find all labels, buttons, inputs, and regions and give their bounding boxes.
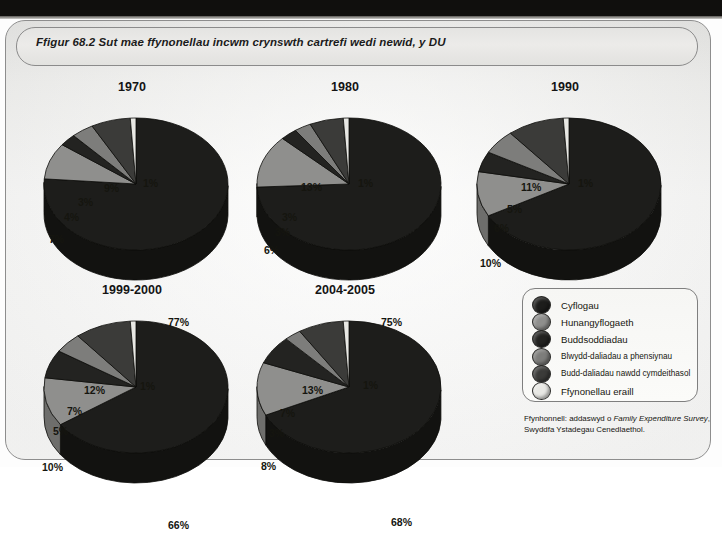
legend-swatch-icon bbox=[532, 313, 551, 331]
source-italic-1: Family Expenditure bbox=[613, 414, 681, 423]
pie-chart: 2004-200568%13%7%3%8%1% bbox=[253, 283, 437, 533]
legend-item-label: Cyflogau bbox=[561, 300, 599, 311]
legend-item: Budd-daliadau nawdd cymdeithasol bbox=[532, 365, 690, 383]
pie-slice-label: 3% bbox=[78, 196, 93, 208]
pie-slice-label: 3% bbox=[282, 211, 297, 223]
pie-slice-label: 7% bbox=[280, 407, 295, 419]
pie-slice-label: 66% bbox=[168, 519, 189, 531]
pie-chart-title: 1990 bbox=[473, 80, 657, 94]
pie-slice-label: 13% bbox=[302, 384, 323, 396]
pie-slice-label: 12% bbox=[84, 384, 105, 396]
pie-slice-label: 1% bbox=[140, 380, 155, 392]
legend-swatch-icon bbox=[532, 296, 551, 314]
legend-item: Cyflogau bbox=[532, 296, 599, 314]
legend-item-label: Budd-daliadau nawdd cymdeithasol bbox=[561, 369, 690, 378]
pie-graphic bbox=[253, 96, 463, 311]
pie-slice-label: 68% bbox=[391, 516, 412, 528]
pie-slice-label: 7% bbox=[49, 233, 64, 245]
pie-slice-label: 6% bbox=[494, 222, 509, 234]
pie-chart-title: 1970 bbox=[40, 80, 224, 94]
pie-slice-label: 5% bbox=[53, 425, 68, 437]
source-prefix: Ffynhonnell: addaswyd o bbox=[524, 414, 613, 423]
legend-item: Blwydd-daliadau a phensiynau bbox=[532, 348, 672, 366]
pie-slice-label: 13% bbox=[301, 181, 322, 193]
legend-item-label: Buddsoddiadau bbox=[561, 334, 628, 345]
legend: CyflogauHunangyflogaethBuddsoddiadauBlwy… bbox=[522, 288, 698, 402]
pie-graphic bbox=[473, 96, 683, 311]
pie-slice-label: 4% bbox=[64, 211, 79, 223]
pie-slice-label: 10% bbox=[480, 257, 501, 269]
pie-slice-label: 1% bbox=[363, 379, 378, 391]
pie-slice-label: 7% bbox=[67, 405, 82, 417]
pie-graphic bbox=[40, 96, 250, 311]
legend-swatch-icon bbox=[532, 348, 551, 366]
pie-slice-label: 9% bbox=[104, 182, 119, 194]
legend-swatch-icon bbox=[532, 365, 551, 383]
pie-slice-label: 1% bbox=[358, 177, 373, 189]
pie-slice-label: 3% bbox=[275, 226, 290, 238]
source-italic-2: Survey bbox=[683, 414, 708, 423]
legend-swatch-icon bbox=[532, 382, 551, 400]
pie-chart-title: 1999-2000 bbox=[40, 283, 224, 297]
legend-item: Hunangyflogaeth bbox=[532, 313, 634, 331]
legend-item: Buddsoddiadau bbox=[532, 330, 628, 348]
pie-slice-label: 5% bbox=[507, 203, 522, 215]
pie-slice-label: 1% bbox=[143, 177, 158, 189]
pie-chart-title: 1980 bbox=[253, 80, 437, 94]
pie-chart: 1999-200066%12%7%5%10%1% bbox=[40, 283, 224, 533]
legend-item-label: Blwydd-daliadau a phensiynau bbox=[561, 352, 672, 361]
pie-slice-label: 10% bbox=[42, 461, 63, 473]
source-note: Ffynhonnell: addaswyd o Family Expenditu… bbox=[524, 414, 714, 435]
pie-slice-label: 3% bbox=[269, 427, 284, 439]
legend-item: Ffynonellau eraill bbox=[532, 382, 634, 400]
pie-slice-label: 6% bbox=[264, 244, 279, 256]
legend-item-label: Ffynonellau eraill bbox=[561, 386, 634, 397]
pie-chart-title: 2004-2005 bbox=[253, 283, 437, 297]
pie-slice-label: 1% bbox=[578, 177, 593, 189]
legend-item-label: Hunangyflogaeth bbox=[561, 317, 634, 328]
pie-slice-label: 8% bbox=[261, 460, 276, 472]
legend-swatch-icon bbox=[532, 330, 551, 348]
pie-slice-label: 11% bbox=[521, 181, 541, 193]
